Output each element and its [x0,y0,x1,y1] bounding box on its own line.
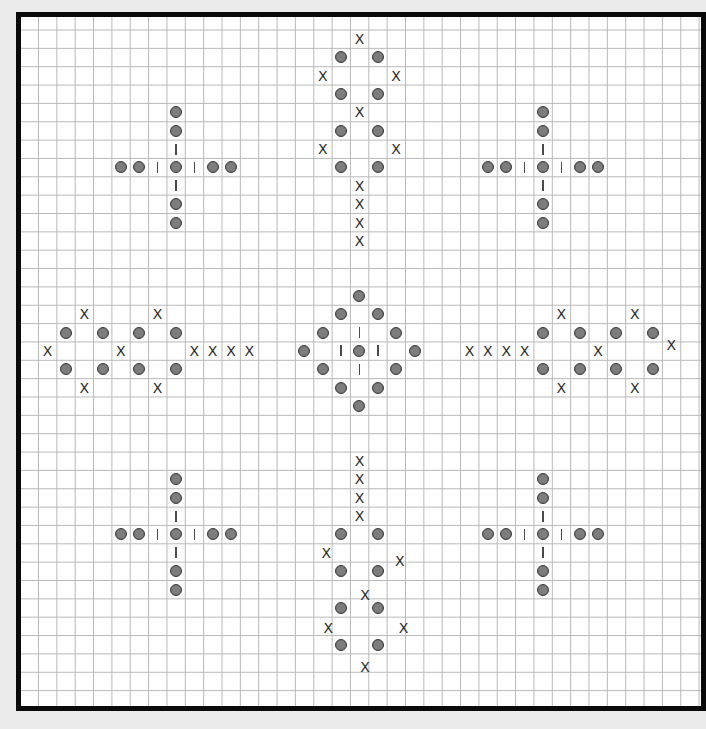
bead-icon [647,327,659,339]
bead-icon [372,161,384,173]
bar-mark-icon [175,180,177,191]
x-mark-icon: X [389,141,403,157]
bead-icon [335,308,347,320]
x-mark-icon: X [114,343,128,359]
x-mark-icon: X [554,306,568,322]
bead-icon [170,492,182,504]
bead-icon [170,584,182,596]
x-mark-icon: X [393,553,407,569]
bar-mark-icon [340,345,342,356]
bar-mark-icon [542,547,544,558]
bead-icon [372,88,384,100]
bead-icon [537,327,549,339]
bead-icon [353,400,365,412]
x-mark-icon: X [352,215,366,231]
bead-icon [225,161,237,173]
x-mark-icon: X [316,141,330,157]
bead-icon [170,528,182,540]
bead-icon [115,528,127,540]
x-mark-icon: X [518,343,532,359]
bead-icon [372,602,384,614]
x-mark-icon: X [628,380,642,396]
bar-mark-icon [524,529,526,540]
bead-icon [207,161,219,173]
bead-icon [537,473,549,485]
bead-icon [335,88,347,100]
x-mark-icon: X [352,471,366,487]
bead-icon [335,639,347,651]
bead-icon [372,565,384,577]
x-mark-icon: X [554,380,568,396]
x-mark-icon: X [319,545,333,561]
x-mark-icon: X [358,659,372,675]
x-mark-icon: X [77,306,91,322]
bead-icon [97,327,109,339]
bead-icon [372,308,384,320]
x-mark-icon: X [316,68,330,84]
bead-icon [207,528,219,540]
x-mark-icon: X [151,306,165,322]
bead-icon [409,345,421,357]
bead-icon [390,363,402,375]
bead-icon [372,528,384,540]
bead-icon [500,161,512,173]
x-mark-icon: X [352,508,366,524]
bead-icon [537,584,549,596]
bar-mark-icon [157,162,159,173]
x-mark-icon: X [352,490,366,506]
bead-icon [225,528,237,540]
bar-mark-icon [194,162,196,173]
bead-icon [537,106,549,118]
bead-icon [592,161,604,173]
bar-mark-icon [157,529,159,540]
bead-icon [60,327,72,339]
bead-icon [537,217,549,229]
pattern-marks-layer: XXXXXXXXXXXXXXXXXXXXXXXXXXXXXXXXXXXXXXXX [16,12,701,711]
pattern-chart-board: XXXXXXXXXXXXXXXXXXXXXXXXXXXXXXXXXXXXXXXX [16,12,706,711]
bead-icon [170,217,182,229]
x-mark-icon: X [41,343,55,359]
bead-icon [537,125,549,137]
bar-mark-icon [175,547,177,558]
bead-icon [610,363,622,375]
bead-icon [335,602,347,614]
bar-mark-icon [194,529,196,540]
bead-icon [335,161,347,173]
bead-icon [537,565,549,577]
bead-icon [592,528,604,540]
bar-mark-icon [561,162,563,173]
x-mark-icon: X [224,343,238,359]
x-mark-icon: X [187,343,201,359]
x-mark-icon: X [242,343,256,359]
bead-icon [537,528,549,540]
x-mark-icon: X [151,380,165,396]
bead-icon [574,363,586,375]
bead-icon [537,363,549,375]
bead-icon [335,565,347,577]
bead-icon [610,327,622,339]
bead-icon [482,528,494,540]
bead-icon [317,327,329,339]
bead-icon [537,198,549,210]
bead-icon [170,327,182,339]
bead-icon [372,382,384,394]
bead-icon [372,51,384,63]
bead-icon [97,363,109,375]
bead-icon [335,382,347,394]
x-mark-icon: X [352,233,366,249]
x-mark-icon: X [77,380,91,396]
bead-icon [170,473,182,485]
bead-icon [537,161,549,173]
bead-icon [170,198,182,210]
x-mark-icon: X [664,337,678,353]
bar-mark-icon [542,180,544,191]
x-mark-icon: X [352,104,366,120]
bead-icon [390,327,402,339]
bead-icon [60,363,72,375]
bead-icon [133,363,145,375]
bead-icon [170,125,182,137]
bead-icon [115,161,127,173]
x-mark-icon: X [321,620,335,636]
x-mark-icon: X [628,306,642,322]
bead-icon [317,363,329,375]
